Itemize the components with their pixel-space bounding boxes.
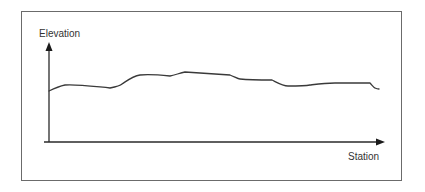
y-axis-arrow-icon [46,42,53,51]
x-axis-label: Station [348,151,379,162]
elevation-profile-line [49,72,379,91]
x-axis-arrow-icon [376,139,385,146]
y-axis-label: Elevation [39,28,80,39]
